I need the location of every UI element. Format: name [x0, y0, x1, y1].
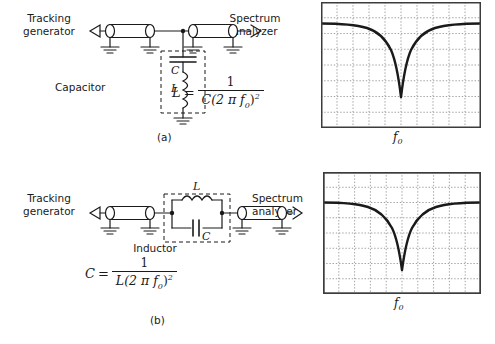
formula-a-equals: = — [184, 85, 195, 100]
circuit-diagram-b: L C — [88, 182, 304, 262]
formula-a-den-lead: C — [202, 92, 212, 107]
formula-a-den-rest: (2 π f — [211, 92, 245, 107]
plot-top-marker-label: f0 — [393, 130, 403, 146]
tracking-generator-label-a: Tracking generator — [10, 12, 88, 37]
formula-a-numerator: 1 — [221, 75, 241, 90]
capacitor-symbol-label-b: C — [202, 230, 211, 243]
inductor-symbol-label-b: L — [192, 182, 200, 193]
panel-b: Tracking generator Spectrum analyzer Ind… — [0, 168, 310, 344]
formula-b-den-exp: 2 — [168, 273, 173, 282]
panel-a-caption: (a) — [157, 131, 172, 143]
tracking-generator-label-b: Tracking generator — [10, 192, 88, 217]
spectrum-plot-top: f0 — [321, 2, 481, 128]
panel-a: Tracking generator Spectrum analyzer Cap… — [0, 0, 310, 155]
plot-bottom-marker-label: f0 — [394, 296, 404, 312]
formula-b-lhs: C — [85, 266, 95, 281]
formula-a-denominator: C(2 π f0)2 — [198, 91, 264, 110]
formula-a-den-exp: 2 — [255, 92, 260, 101]
dashed-component-box-b — [164, 194, 230, 242]
formula-b-equals: = — [98, 266, 109, 281]
formula-a: L = 1 C(2 π f0)2 — [172, 75, 264, 110]
formula-a-lhs: L — [172, 85, 181, 100]
formula-b: C = 1 L(2 π f0)2 — [85, 256, 177, 291]
panel-b-caption: (b) — [150, 314, 165, 326]
formula-b-den-lead: L — [116, 273, 124, 288]
formula-a-fraction: 1 C(2 π f0)2 — [198, 75, 264, 110]
spectrum-plot-bottom: f0 — [323, 172, 481, 294]
formula-b-fraction: 1 L(2 π f0)2 — [112, 256, 177, 291]
formula-b-numerator: 1 — [135, 256, 155, 271]
formula-b-denominator: L(2 π f0)2 — [112, 272, 177, 291]
formula-b-den-rest: (2 π f — [124, 273, 158, 288]
